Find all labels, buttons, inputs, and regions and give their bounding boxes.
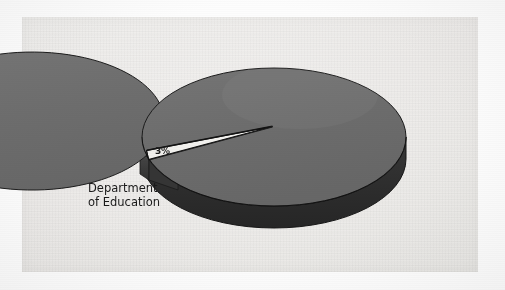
figure-container: 3% Department of Education — [0, 0, 505, 290]
slice-callout-label: Department of Education — [88, 181, 160, 209]
slice-callout-line-1: Department — [88, 181, 160, 195]
slice-percent-label: 3% — [155, 146, 170, 156]
pie-chart-svg — [0, 0, 505, 290]
slice-callout-line-2: of Education — [88, 195, 160, 209]
pie-chart — [0, 0, 505, 290]
pie-highlight — [222, 61, 378, 129]
